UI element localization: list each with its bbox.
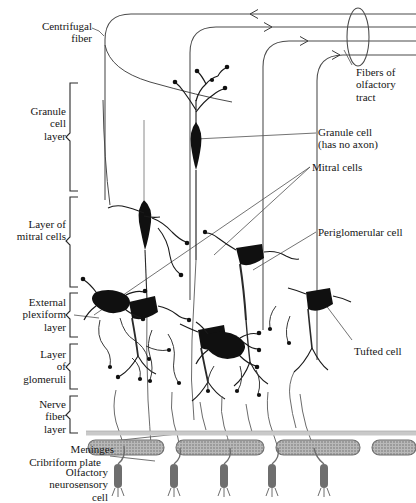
- nerve-fiber-layer-axons: [114, 390, 314, 448]
- label-layer-of-glomeruli: Layer of glomeruli: [2, 348, 66, 385]
- label-granule-cell: Granule cell (has no axon): [318, 126, 416, 151]
- mitral-cell-1: [203, 230, 299, 386]
- granule-cell-lower: [108, 120, 189, 445]
- label-olfactory-neurosensory-cell: Olfactory neurosensory cell: [0, 466, 108, 503]
- centrifugal-fiber-bundle: [103, 45, 232, 205]
- label-tufted-cell: Tufted cell: [354, 345, 416, 357]
- tufted-cell: [288, 288, 351, 428]
- label-centrifugal-fiber: Centrifugal fiber: [6, 20, 92, 45]
- label-mitral-cells: Mitral cells: [312, 161, 392, 173]
- label-layer-of-mitral-cells: Layer of mitral cells: [2, 218, 66, 243]
- label-nerve-fiber-layer: Nerve fiber layer: [6, 398, 66, 435]
- periglomerular-cells: [81, 277, 262, 370]
- label-periglomerular-cell: Periglomerular cell: [318, 226, 414, 238]
- glomerular-dendritic-tufts: [99, 306, 290, 394]
- meninges-band: [86, 431, 416, 436]
- neurosensory-cell: [168, 448, 180, 497]
- granule-cell-upper: [173, 65, 230, 420]
- label-fibers-of-olfactory-tract: Fibers of olfactory tract: [356, 66, 416, 103]
- mitral-cells: [97, 230, 299, 401]
- label-meninges: Meninges: [6, 443, 114, 455]
- label-external-plexiform-layer: External plexiform layer: [2, 296, 66, 333]
- tract-bundle-ellipse: [347, 8, 369, 66]
- neurosensory-cell: [266, 448, 278, 497]
- granule-cells: [108, 65, 229, 445]
- left-layer-brackets: [66, 83, 78, 433]
- label-leader-lines: [74, 28, 352, 461]
- cribriform-plate: [88, 440, 416, 455]
- tract-arrowheads: [250, 10, 340, 60]
- label-granule-cell-layer: Granule cell layer: [4, 105, 66, 142]
